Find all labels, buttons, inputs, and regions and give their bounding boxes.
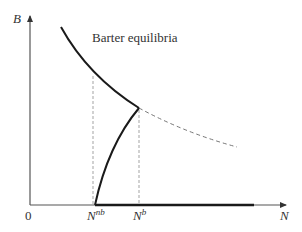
barter-equilibria-label: Barter equilibria <box>92 30 178 45</box>
rising-branch-curve <box>95 108 139 205</box>
origin-label: 0 <box>25 208 32 223</box>
tick-label-nnb: Nnb <box>86 207 105 223</box>
barter-equilibria-diagram: B N 0 Barter equilibria Nnb Nb <box>0 0 302 232</box>
continuation-dashed-curve <box>139 108 237 147</box>
y-axis-label: B <box>13 11 21 26</box>
tick-label-nb: Nb <box>132 207 147 223</box>
x-axis-label: N <box>279 208 290 223</box>
